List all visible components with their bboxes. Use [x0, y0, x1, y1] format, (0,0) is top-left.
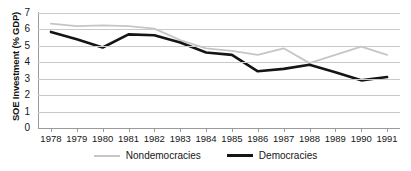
- y-axis-tick-label: 2: [0, 90, 30, 100]
- x-axis-tick-mark: [77, 128, 78, 132]
- y-axis-tick-label: 4: [0, 57, 30, 67]
- x-axis-tick-label: 1981: [118, 133, 139, 144]
- x-axis-tick-label: 1978: [40, 133, 61, 144]
- legend-label-nondemocracies: Nondemocracies: [126, 150, 201, 161]
- x-axis-tick-label: 1991: [376, 133, 397, 144]
- gridline: [38, 112, 400, 113]
- x-axis-tick-label: 1984: [195, 133, 216, 144]
- y-axis-tick-label: 5: [0, 41, 30, 51]
- gridline: [38, 95, 400, 96]
- x-axis-tick-label: 1983: [170, 133, 191, 144]
- y-axis-tick-label: 1: [0, 107, 30, 117]
- x-axis-tick-label: 1988: [299, 133, 320, 144]
- x-axis-tick-mark: [180, 128, 181, 132]
- x-axis-tick-mark: [129, 128, 130, 132]
- series-line-democracies: [51, 32, 387, 80]
- chart-legend: Nondemocracies Democracies: [0, 150, 411, 161]
- x-axis-tick-mark: [206, 128, 207, 132]
- legend-swatch-democracies-icon: [227, 154, 253, 157]
- y-axis-tick-label: 0: [0, 123, 30, 133]
- y-axis-tick-label: 3: [0, 74, 30, 84]
- x-axis-tick-mark: [387, 128, 388, 132]
- plot-area: [38, 13, 400, 128]
- x-axis-tick-mark: [232, 128, 233, 132]
- x-axis-tick-label: 1982: [144, 133, 165, 144]
- legend-item-nondemocracies[interactable]: Nondemocracies: [94, 150, 201, 161]
- gridline: [38, 79, 400, 80]
- y-axis-tick-label: 6: [0, 24, 30, 34]
- x-axis-tick-mark: [284, 128, 285, 132]
- y-axis-tick-labels: 01234567: [0, 13, 34, 128]
- x-axis-tick-mark: [258, 128, 259, 132]
- chart-container: SOE Investment (% GDP) 01234567 19781979…: [0, 0, 411, 171]
- x-axis-tick-mark: [335, 128, 336, 132]
- x-axis-tick-label: 1979: [66, 133, 87, 144]
- x-axis-tick-mark: [310, 128, 311, 132]
- x-axis-tick-labels: 1978197919801981198219831984198519861987…: [38, 133, 400, 147]
- gridline: [38, 128, 400, 129]
- x-axis-tick-label: 1985: [221, 133, 242, 144]
- legend-swatch-nondemocracies-icon: [94, 155, 120, 157]
- legend-item-democracies[interactable]: Democracies: [227, 150, 317, 161]
- x-axis-tick-mark: [361, 128, 362, 132]
- gridline: [38, 62, 400, 63]
- y-axis-tick-label: 7: [0, 8, 30, 18]
- x-axis-tick-label: 1989: [325, 133, 346, 144]
- x-axis-tick-mark: [154, 128, 155, 132]
- gridline: [38, 29, 400, 30]
- x-axis-tick-label: 1986: [247, 133, 268, 144]
- x-axis-tick-label: 1990: [351, 133, 372, 144]
- gridline: [38, 13, 400, 14]
- x-axis-tick-label: 1987: [273, 133, 294, 144]
- legend-label-democracies: Democracies: [259, 150, 317, 161]
- x-axis-tick-label: 1980: [92, 133, 113, 144]
- x-axis-tick-mark: [51, 128, 52, 132]
- gridline: [38, 46, 400, 47]
- x-axis-tick-mark: [103, 128, 104, 132]
